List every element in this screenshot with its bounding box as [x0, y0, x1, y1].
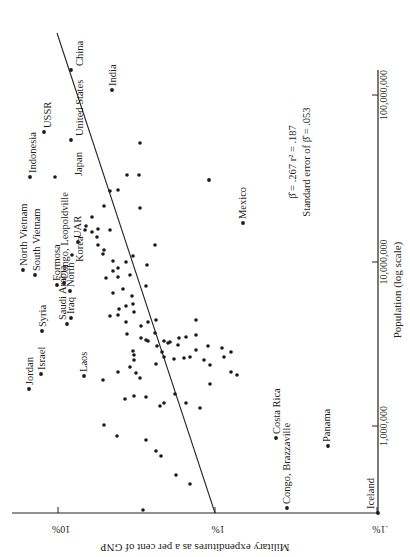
data-point — [128, 365, 132, 369]
data-point — [139, 336, 143, 340]
scatter-chart: 10%1%.1% 1,000,00010,000,000100,000,000 … — [0, 0, 410, 557]
y-tick-label: 1% — [211, 524, 224, 535]
data-point — [177, 336, 181, 340]
data-point — [96, 227, 100, 231]
data-point — [154, 449, 158, 453]
labeled-data-point — [82, 374, 86, 378]
point-label: India — [107, 64, 118, 86]
labeled-data-point — [69, 138, 73, 142]
annotation-std-error: Standard error of β̂ = .053 — [301, 107, 312, 216]
data-point — [158, 404, 162, 408]
data-point — [96, 243, 100, 247]
point-label: Japan — [73, 151, 84, 176]
data-point — [188, 482, 192, 486]
data-point — [235, 373, 239, 377]
data-point — [95, 235, 99, 239]
point-label: Saudi Arabia — [57, 265, 68, 320]
data-point — [159, 454, 163, 458]
data-point — [194, 318, 198, 322]
labeled-data-point — [65, 322, 69, 326]
data-point — [90, 215, 94, 219]
chart-canvas: 10%1%.1% 1,000,00010,000,000100,000,000 … — [0, 0, 410, 557]
y-tick-label: .1% — [372, 524, 388, 535]
data-point — [101, 378, 105, 382]
labeled-data-point — [40, 329, 44, 333]
data-point — [138, 206, 142, 210]
data-point — [131, 254, 135, 258]
point-label: Laos — [78, 352, 89, 372]
data-point — [116, 266, 120, 270]
data-point — [146, 320, 150, 324]
data-point — [83, 228, 87, 232]
data-point — [198, 406, 202, 410]
data-point — [124, 304, 128, 308]
labeled-data-point — [68, 289, 72, 293]
data-point — [141, 508, 145, 512]
data-point — [132, 310, 136, 314]
data-point — [115, 434, 119, 438]
data-point — [130, 294, 134, 298]
data-point — [111, 291, 115, 295]
data-point — [102, 423, 106, 427]
data-point — [144, 284, 148, 288]
data-point — [108, 314, 112, 318]
data-point — [111, 259, 115, 263]
labeled-data-point — [274, 436, 278, 440]
data-point — [229, 350, 233, 354]
data-point — [206, 344, 210, 348]
data-point — [202, 358, 206, 362]
point-label: Korea — [74, 236, 85, 262]
data-point — [172, 357, 176, 361]
data-point — [144, 395, 148, 399]
labeled-data-point — [69, 316, 73, 320]
point-label: United States — [74, 80, 85, 136]
point-label: Indonesia — [27, 132, 38, 173]
data-point — [138, 376, 142, 380]
data-point — [131, 349, 135, 353]
data-point — [153, 331, 157, 335]
y-axis-title: Military expenditures as a per cent of G… — [100, 542, 289, 554]
labeled-data-point — [21, 268, 25, 272]
data-point — [144, 338, 148, 342]
data-point — [124, 320, 128, 324]
data-points — [53, 141, 239, 512]
labeled-data-point — [28, 175, 32, 179]
point-label: South Vietnam — [31, 209, 42, 271]
data-point — [124, 260, 128, 264]
labeled-data-point — [39, 372, 43, 376]
data-point — [182, 356, 186, 360]
data-point — [154, 318, 158, 322]
data-point — [173, 392, 177, 396]
point-label: North Vietnam — [18, 204, 29, 266]
x-tick-label: 100,000,000 — [378, 70, 389, 120]
data-point — [174, 473, 178, 477]
data-point — [123, 397, 127, 401]
point-label: Mexico — [237, 187, 248, 219]
data-point — [132, 358, 136, 362]
y-axis-ticks: 10%1%.1% — [52, 507, 388, 535]
point-label: Congo, Brazzaville — [281, 423, 292, 504]
data-point — [53, 175, 57, 179]
data-point — [166, 341, 170, 345]
point-label: Panama — [321, 408, 332, 442]
data-point — [111, 269, 115, 273]
data-point — [222, 355, 226, 359]
labeled-data-point — [241, 221, 245, 225]
data-point — [194, 348, 198, 352]
data-point — [208, 363, 212, 367]
data-point — [162, 355, 166, 359]
point-label: Israel — [36, 347, 47, 370]
data-point — [139, 324, 143, 328]
data-point — [220, 346, 224, 350]
data-point — [132, 394, 136, 398]
point-label: Syria — [37, 304, 48, 327]
data-point — [184, 335, 188, 339]
data-point — [138, 141, 142, 145]
data-point — [101, 252, 105, 256]
data-point — [188, 355, 192, 359]
data-point — [108, 228, 112, 232]
data-point — [116, 370, 120, 374]
point-labels: ChinaIndiaUSSRUnited StatesIndonesiaJapa… — [18, 41, 380, 515]
data-point — [104, 276, 108, 280]
data-point — [128, 273, 132, 277]
